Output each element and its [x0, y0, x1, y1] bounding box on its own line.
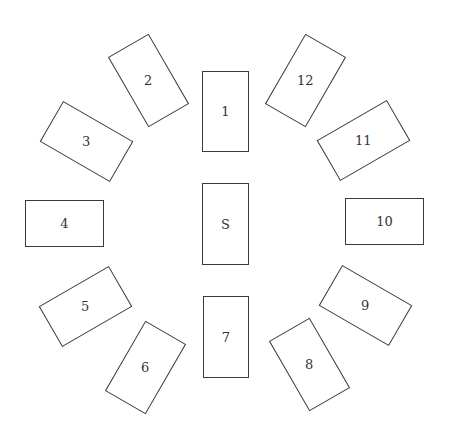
card-position-label: 11: [355, 133, 372, 148]
card-position-label: 1: [221, 104, 229, 119]
card-position-6: 6: [104, 320, 185, 414]
card-position-7: 7: [203, 296, 249, 378]
card-position-label: 10: [376, 214, 393, 229]
card-position-label: S: [221, 217, 230, 232]
card-position-8: 8: [268, 318, 349, 412]
card-position-3: 3: [39, 100, 133, 181]
card-position-s: S: [202, 183, 249, 265]
card-position-4: 4: [25, 200, 104, 247]
card-position-label: 3: [82, 134, 90, 149]
card-position-label: 5: [81, 299, 89, 314]
card-position-label: 8: [305, 357, 313, 372]
card-position-label: 4: [60, 216, 68, 231]
card-position-11: 11: [316, 99, 410, 180]
card-position-9: 9: [318, 265, 412, 346]
card-position-label: 7: [222, 330, 230, 345]
card-position-10: 10: [345, 198, 424, 245]
card-position-1: 1: [202, 71, 249, 152]
card-position-12: 12: [264, 33, 345, 127]
card-position-label: 6: [141, 360, 149, 375]
card-position-2: 2: [107, 33, 188, 127]
card-position-5: 5: [39, 266, 133, 347]
card-position-label: 12: [297, 72, 314, 87]
card-position-label: 9: [361, 298, 369, 313]
card-position-label: 2: [144, 73, 152, 88]
